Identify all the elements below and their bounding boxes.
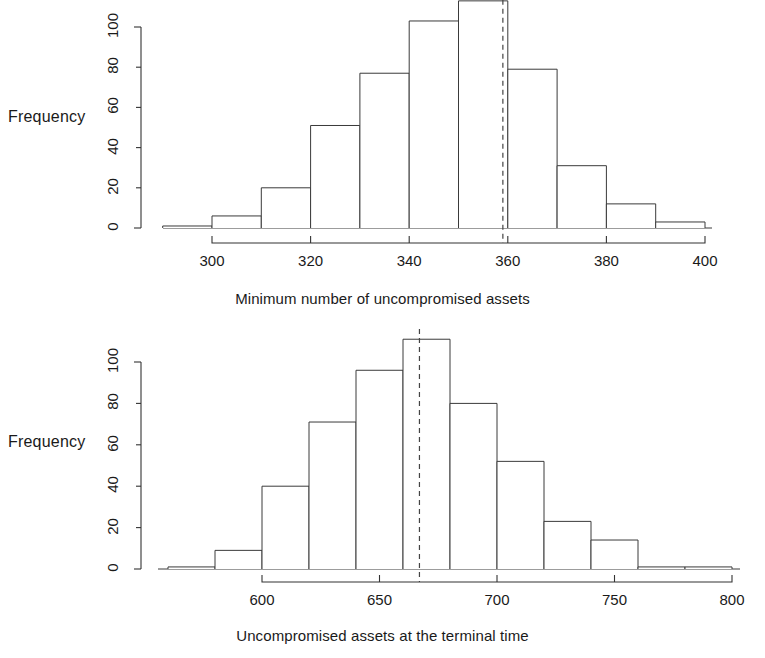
- y-tick-label: 60: [104, 427, 121, 459]
- histogram-bar: [356, 370, 403, 569]
- histogram-bar: [557, 166, 606, 228]
- histogram-bar: [544, 521, 591, 569]
- y-tick-label: 60: [104, 90, 121, 122]
- histogram-bar: [262, 486, 309, 569]
- histogram-bar: [656, 222, 705, 228]
- histogram-bar: [685, 567, 732, 569]
- histogram-bar: [168, 567, 215, 569]
- histogram-bar: [450, 403, 497, 569]
- histogram-bar: [212, 216, 261, 228]
- histogram-bar: [215, 550, 262, 569]
- x-tick-label: 380: [576, 252, 636, 269]
- x-tick-label: 340: [379, 252, 439, 269]
- histogram-bar: [163, 226, 212, 228]
- y-tick-label: 80: [104, 386, 121, 418]
- histogram-bar: [606, 204, 655, 228]
- x-tick-label: 650: [350, 591, 410, 608]
- y-tick-label: 20: [104, 170, 121, 202]
- y-tick-label: 0: [104, 211, 121, 243]
- y-tick-label: 80: [104, 50, 121, 82]
- x-tick-label: 700: [467, 591, 527, 608]
- histogram-bar: [459, 1, 508, 228]
- histogram-bar: [261, 188, 310, 228]
- panel-minimum-uncompromised-assets: Frequency Minimum number of uncompromise…: [0, 0, 765, 329]
- histogram-bar: [508, 69, 557, 228]
- y-tick-label: 40: [104, 469, 121, 501]
- histogram-bar: [403, 339, 450, 569]
- x-tick-label: 360: [478, 252, 538, 269]
- histogram-bar: [409, 21, 458, 228]
- two-panel-histogram-figure: Frequency Minimum number of uncompromise…: [0, 0, 765, 658]
- histogram-bar: [638, 567, 685, 569]
- x-axis-line: [212, 236, 705, 243]
- y-tick-label: 20: [104, 510, 121, 542]
- y-tick-label: 0: [104, 552, 121, 584]
- histogram-bar: [311, 125, 360, 228]
- histogram-bar: [591, 540, 638, 569]
- x-tick-label: 750: [585, 591, 645, 608]
- x-tick-label: 320: [281, 252, 341, 269]
- histogram-bar: [497, 461, 544, 569]
- x-tick-label: 300: [182, 252, 242, 269]
- x-tick-label: 800: [702, 591, 762, 608]
- panel-terminal-uncompromised-assets: Frequency Uncompromised assets at the te…: [0, 329, 765, 658]
- y-tick-label: 100: [104, 345, 121, 377]
- y-tick-label: 100: [104, 10, 121, 42]
- y-tick-label: 40: [104, 130, 121, 162]
- x-tick-label: 600: [232, 591, 292, 608]
- histogram-bar: [360, 73, 409, 228]
- x-tick-label: 400: [675, 252, 735, 269]
- histogram-bar: [309, 422, 356, 569]
